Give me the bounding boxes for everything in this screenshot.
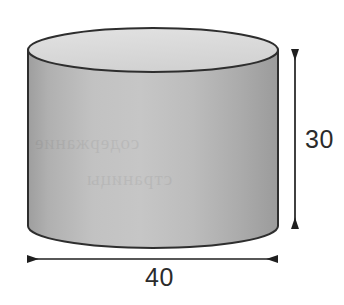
cylinder-figure: содержание страницы 30 40 <box>0 0 344 305</box>
height-dimension-label: 30 <box>305 127 334 152</box>
cylinder-drawing <box>0 0 344 305</box>
cylinder-shape <box>28 28 278 248</box>
width-dimension-label: 40 <box>145 265 174 290</box>
cylinder-top-face <box>28 28 278 72</box>
cylinder-lateral-surface <box>28 50 278 248</box>
